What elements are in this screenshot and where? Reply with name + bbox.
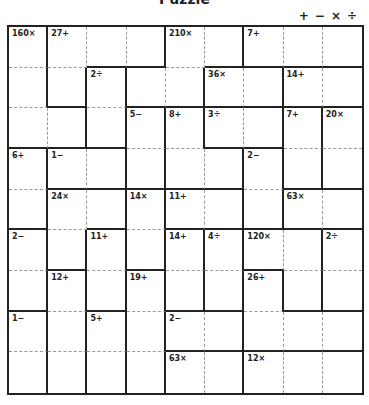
- cage-clue: 2−: [12, 233, 24, 241]
- cage-clue: 2÷: [326, 233, 338, 241]
- grid-cell[interactable]: [48, 312, 87, 353]
- grid-cell[interactable]: [205, 149, 244, 190]
- cage-clue: 63×: [169, 355, 187, 363]
- puzzle-title: Puzzle: [0, 0, 369, 7]
- grid-cell[interactable]: [127, 230, 166, 271]
- cage-clue: 11+: [169, 193, 187, 201]
- cage-clue: 36×: [208, 71, 226, 79]
- cage-clue: 1−: [51, 152, 63, 160]
- grid-cell[interactable]: [9, 68, 48, 109]
- grid-cell[interactable]: [127, 352, 166, 393]
- grid-cell[interactable]: [87, 352, 126, 393]
- cage-clue: 7+: [287, 111, 299, 119]
- cage-clue: 5−: [130, 111, 142, 119]
- cage-clue: 63×: [287, 193, 305, 201]
- grid-cell[interactable]: [127, 149, 166, 190]
- minus-operator: −: [315, 9, 331, 23]
- cage-clue: 14+: [169, 233, 187, 241]
- grid-cell[interactable]: [166, 271, 205, 312]
- grid-cell[interactable]: [284, 27, 323, 68]
- cage-clue: 14×: [130, 193, 148, 201]
- divide-operator: ÷: [347, 9, 363, 23]
- grid-cell[interactable]: [48, 108, 87, 149]
- grid-cell[interactable]: [127, 312, 166, 353]
- cage-clue: 7+: [247, 30, 259, 38]
- cage-clue: 12×: [247, 355, 265, 363]
- grid-cell[interactable]: [9, 190, 48, 231]
- cage-clue: 3÷: [208, 111, 220, 119]
- operator-legend: +−×÷: [299, 9, 363, 23]
- cage-clue: 6+: [12, 152, 24, 160]
- grid-cell[interactable]: [87, 108, 126, 149]
- grid-cell[interactable]: [323, 271, 362, 312]
- cage-clue: 120×: [247, 233, 270, 241]
- grid-cell[interactable]: [87, 190, 126, 231]
- cage-clue: 14+: [287, 71, 305, 79]
- cage-clue: 8+: [169, 111, 181, 119]
- grid-cell[interactable]: [244, 108, 283, 149]
- cage-clue: 27+: [51, 30, 69, 38]
- grid-cell[interactable]: [323, 27, 362, 68]
- cage-clue: 20×: [326, 111, 344, 119]
- grid-cell[interactable]: [244, 190, 283, 231]
- grid-cell[interactable]: [323, 68, 362, 109]
- grid-cell[interactable]: [284, 312, 323, 353]
- grid-cell[interactable]: [323, 149, 362, 190]
- grid-cell[interactable]: [244, 68, 283, 109]
- grid-cell[interactable]: [284, 352, 323, 393]
- grid-cell[interactable]: [166, 68, 205, 109]
- grid-cell[interactable]: [244, 312, 283, 353]
- cage-clue: 24×: [51, 193, 69, 201]
- grid-cell[interactable]: [48, 230, 87, 271]
- grid-cell[interactable]: [284, 271, 323, 312]
- cage-clue: 11+: [90, 233, 108, 241]
- grid-cell[interactable]: [166, 149, 205, 190]
- times-operator: ×: [331, 9, 347, 23]
- grid-cell[interactable]: [9, 108, 48, 149]
- cage-clue: 160×: [12, 30, 35, 38]
- grid-cell[interactable]: [205, 352, 244, 393]
- grid-cell[interactable]: [205, 190, 244, 231]
- cage-clue: 4÷: [208, 233, 220, 241]
- grid-cell[interactable]: [205, 27, 244, 68]
- cage-clue: 5+: [90, 315, 102, 323]
- cage-clue: 2−: [247, 152, 259, 160]
- grid-cell[interactable]: [87, 271, 126, 312]
- grid-cell[interactable]: [48, 68, 87, 109]
- grid-cell[interactable]: [323, 352, 362, 393]
- grid-cell[interactable]: [9, 352, 48, 393]
- grid-cell[interactable]: [323, 312, 362, 353]
- grid-cell[interactable]: [205, 271, 244, 312]
- grid-cell[interactable]: [205, 312, 244, 353]
- grid-cell[interactable]: [87, 27, 126, 68]
- grid-cell[interactable]: [9, 271, 48, 312]
- cage-clue: 2÷: [90, 71, 102, 79]
- cage-clue: 1−: [12, 315, 24, 323]
- grid-cell[interactable]: [127, 68, 166, 109]
- cage-clue: 12+: [51, 274, 69, 282]
- grid-cell[interactable]: [127, 27, 166, 68]
- cage-clue: 210×: [169, 30, 192, 38]
- grid-cell[interactable]: [87, 149, 126, 190]
- kenken-grid: 160×27+210×7+2÷36×14+5−8+3÷7+20×6+1−2−24…: [7, 25, 364, 395]
- grid-cell[interactable]: [323, 190, 362, 231]
- grid-cell[interactable]: [284, 230, 323, 271]
- cage-clue: 2−: [169, 315, 181, 323]
- cage-clue: 26+: [247, 274, 265, 282]
- plus-operator: +: [299, 9, 315, 23]
- grid-cell[interactable]: [48, 352, 87, 393]
- grid-cell[interactable]: [284, 149, 323, 190]
- cage-clue: 19+: [130, 274, 148, 282]
